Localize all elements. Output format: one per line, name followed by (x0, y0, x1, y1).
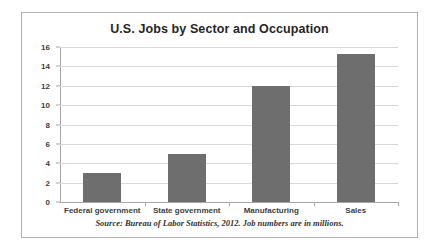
bar-slot (314, 47, 399, 202)
y-axis-tick-label: 6 (46, 139, 50, 148)
bar-slot (229, 47, 314, 202)
bar-series (60, 47, 398, 202)
x-axis-tick-mark (398, 202, 399, 206)
bar (337, 54, 375, 202)
y-axis-tick-label: 4 (46, 159, 50, 168)
plot-area (60, 47, 398, 202)
chart-figure: U.S. Jobs by Sector and Occupation 02468… (21, 12, 418, 238)
x-axis-category-label: Manufacturing (229, 206, 314, 215)
x-axis-category-label: Sales (314, 206, 399, 215)
x-axis-category-label: State government (145, 206, 230, 215)
chart-title: U.S. Jobs by Sector and Occupation (22, 22, 417, 36)
bar-slot (60, 47, 145, 202)
bar (83, 173, 121, 202)
y-axis-tick-labels: 0246810121416 (22, 47, 56, 202)
y-axis-tick-label: 8 (46, 120, 50, 129)
bar (252, 86, 290, 202)
bar-slot (145, 47, 230, 202)
y-axis-tick-label: 10 (41, 101, 50, 110)
x-axis-category-label: Federal government (60, 206, 145, 215)
bar (168, 154, 206, 202)
source-note: Source: Bureau of Labor Statistics, 2012… (22, 218, 417, 228)
y-axis-tick-label: 0 (46, 198, 50, 207)
y-axis-tick-label: 12 (41, 81, 50, 90)
y-axis-tick-label: 2 (46, 178, 50, 187)
y-axis-tick-label: 16 (41, 43, 50, 52)
y-axis-tick-label: 14 (41, 62, 50, 71)
